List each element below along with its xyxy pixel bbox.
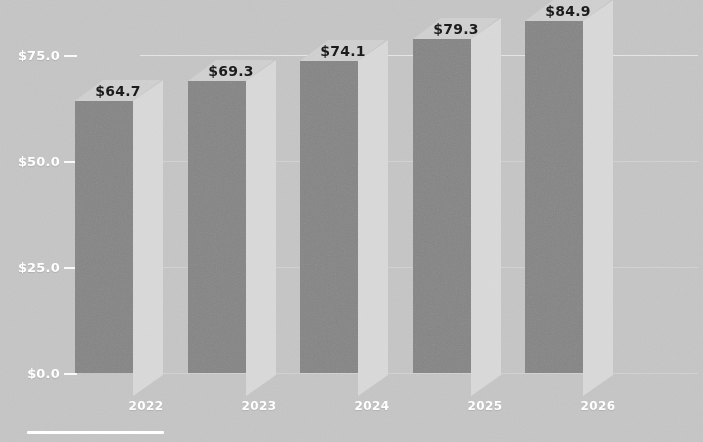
bar-side-face [133, 80, 163, 396]
ytick-label-0: $0.0 [0, 366, 60, 381]
bar-value-label: $84.9 [528, 3, 608, 19]
chart-canvas: $75.0 $50.0 $25.0 $0.0 $64.7 [0, 0, 703, 442]
ytick-label-50: $50.0 [0, 154, 60, 169]
ytick-stub-75 [64, 55, 77, 57]
bar-value-label: $79.3 [416, 21, 496, 37]
plot-area: $75.0 $50.0 $25.0 $0.0 $64.7 [0, 0, 703, 442]
bar-front-face [75, 101, 133, 373]
bar-front-face [525, 21, 583, 373]
bar-side-face [358, 40, 388, 396]
xtick-label-2023: 2023 [229, 399, 289, 413]
footer-rule [27, 431, 164, 434]
bar-value-label: $74.1 [303, 43, 383, 59]
bar-value-label: $69.3 [191, 63, 271, 79]
xtick-label-2025: 2025 [455, 399, 515, 413]
bar-front-face [413, 39, 471, 373]
bar-side-face [471, 18, 501, 396]
bar-value-label: $64.7 [78, 83, 158, 99]
xtick-label-2026: 2026 [568, 399, 628, 413]
xtick-label-2024: 2024 [342, 399, 402, 413]
xtick-label-2022: 2022 [116, 399, 176, 413]
ytick-label-25: $25.0 [0, 260, 60, 275]
ytick-label-75: $75.0 [0, 48, 60, 63]
gridline-0 [140, 373, 698, 374]
bar-side-face [583, 0, 613, 396]
bar-front-face [300, 61, 358, 373]
bar-front-face [188, 81, 246, 373]
bar-side-face [246, 60, 276, 396]
ytick-stub-0 [64, 373, 77, 375]
